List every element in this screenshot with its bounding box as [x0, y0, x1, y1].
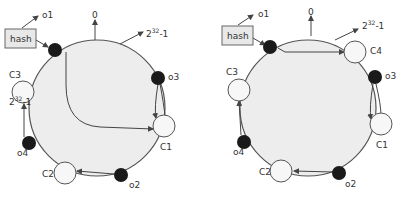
c4-label: C4: [370, 46, 382, 56]
object-node-o3: [151, 71, 165, 85]
o1-pointer: [238, 15, 253, 25]
zero-label: 0: [92, 10, 98, 20]
overlap-max-label: 232-1: [9, 95, 31, 107]
object-node-o1: [48, 43, 62, 57]
max-label: 232-1: [362, 19, 384, 31]
c3-label: C3: [9, 70, 21, 80]
hash-label: hash: [10, 34, 32, 44]
cache-node-c1: [370, 113, 392, 135]
o3-label: o3: [385, 71, 396, 81]
o4-label: o4: [233, 147, 245, 157]
hash-ring: [29, 40, 165, 176]
c1-label: C1: [376, 140, 388, 150]
o2-label: o2: [129, 180, 140, 190]
cache-node-c2: [54, 162, 76, 184]
o4-label: o4: [17, 148, 29, 158]
hash-ring-before: 0 232-1 hash o1 o3 C1 o2 C2 o4 C3 23: [5, 10, 179, 190]
o1-pointer: [22, 16, 38, 28]
max-pointer: [120, 32, 143, 44]
max-pointer: [335, 29, 358, 40]
c2-label: C2: [42, 169, 54, 179]
hash-to-node-arrow: [253, 38, 265, 45]
o3-ring-arc: [376, 84, 381, 116]
o2-label: o2: [345, 179, 356, 189]
c2-label: C2: [259, 167, 271, 177]
cache-node-c1: [153, 115, 175, 137]
consistent-hashing-diagram: 0 232-1 hash o1 o3 C1 o2 C2 o4 C3 23: [0, 0, 401, 201]
object-node-o1: [263, 40, 277, 54]
o3-label: o3: [168, 72, 179, 82]
hash-label: hash: [227, 31, 249, 41]
cache-node-c2: [270, 160, 292, 182]
cache-node-c3: [228, 79, 250, 101]
object-node-o2: [114, 168, 128, 182]
c3-label: C3: [226, 67, 238, 77]
cache-node-c4: [344, 41, 366, 63]
c1-label: C1: [160, 142, 172, 152]
max-label: 232-1: [146, 27, 168, 39]
object-node-o3: [368, 70, 382, 84]
o1-label: o1: [258, 9, 269, 19]
hash-ring-after: 0 232-1 hash o1 C4 o3 C1 o2 C2 o4 C3: [222, 7, 396, 189]
o1-label: o1: [42, 10, 53, 20]
hash-to-node-arrow: [36, 40, 48, 47]
zero-label: 0: [308, 7, 314, 17]
object-node-o2: [332, 166, 346, 180]
